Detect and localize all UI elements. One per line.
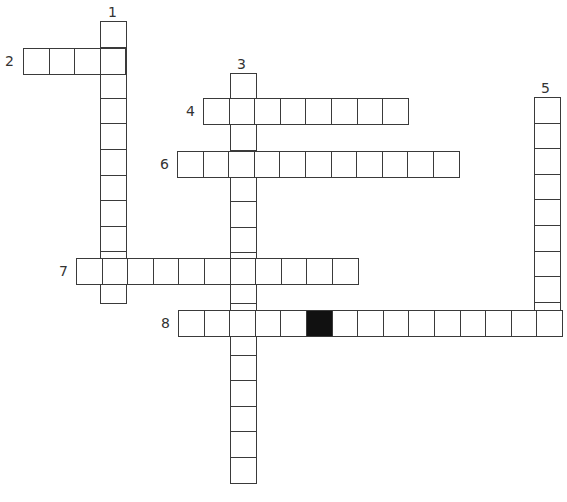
clue-number-5: 5 [541,81,550,95]
answer-cell-1-down-4[interactable] [100,98,127,125]
answer-cell-8-across-1[interactable] [178,310,205,337]
answer-cell-8-across-10[interactable] [408,310,435,337]
answer-cell-7-across-2[interactable] [102,258,129,285]
answer-cell-2-across-3[interactable] [74,48,101,75]
answer-cell-4-across-4[interactable] [280,98,307,125]
clue-number-1: 1 [108,5,117,19]
answer-cell-6-across-4[interactable] [254,151,281,178]
answer-cell-3-down-7[interactable] [230,227,257,254]
answer-cell-3-down-6[interactable] [230,201,257,228]
answer-cell-6-across-9[interactable] [382,151,409,178]
answer-cell-8-across-14[interactable] [511,310,538,337]
clue-number-7: 7 [59,264,68,278]
answer-cell-5-down-6[interactable] [534,225,561,252]
answer-cell-8-across-8[interactable] [357,310,384,337]
answer-cell-1-down-3[interactable] [100,72,127,99]
clue-number-6: 6 [160,157,169,171]
clue-number-2: 2 [5,54,14,68]
answer-cell-4-across-1[interactable] [203,98,230,125]
answer-cell-7-across-9[interactable] [281,258,308,285]
answer-cell-7-across-1[interactable] [76,258,103,285]
answer-cell-6-across-10[interactable] [407,151,434,178]
answer-cell-8-across-5[interactable] [280,310,307,337]
answer-cell-7-across-5[interactable] [178,258,205,285]
answer-cell-5-down-8[interactable] [534,276,561,303]
answer-cell-8-across-15[interactable] [536,310,563,337]
answer-cell-8-across-7[interactable] [332,310,359,337]
answer-cell-4-across-6[interactable] [331,98,358,125]
answer-cell-8-across-3[interactable] [229,310,256,337]
answer-cell-7-across-7[interactable] [230,258,257,285]
answer-cell-6-across-2[interactable] [203,151,230,178]
answer-cell-3-down-15[interactable] [230,431,257,458]
answer-cell-5-down-1[interactable] [534,97,561,124]
clue-number-8: 8 [161,316,170,330]
answer-cell-7-across-10[interactable] [306,258,333,285]
answer-cell-8-across-11[interactable] [434,310,461,337]
answer-cell-8-across-4[interactable] [255,310,282,337]
answer-cell-6-across-5[interactable] [279,151,306,178]
answer-cell-5-down-2[interactable] [534,123,561,150]
answer-cell-7-across-3[interactable] [127,258,154,285]
answer-cell-6-across-6[interactable] [305,151,332,178]
answer-cell-6-across-7[interactable] [331,151,358,178]
answer-cell-3-down-5[interactable] [230,175,257,202]
answer-cell-5-down-4[interactable] [534,174,561,201]
answer-cell-1-down-9[interactable] [100,226,127,253]
answer-cell-2-across-2[interactable] [49,48,76,75]
answer-cell-1-down-5[interactable] [100,123,127,150]
answer-cell-8-across-12[interactable] [460,310,487,337]
answer-cell-7-across-11[interactable] [332,258,359,285]
answer-cell-5-down-3[interactable] [534,148,561,175]
answer-cell-5-down-5[interactable] [534,199,561,226]
answer-cell-4-across-3[interactable] [254,98,281,125]
answer-cell-7-across-6[interactable] [204,258,231,285]
answer-cell-3-down-3[interactable] [230,124,257,151]
answer-cell-2-across-4[interactable] [100,48,127,75]
answer-cell-8-across-13[interactable] [485,310,512,337]
answer-cell-7-across-8[interactable] [255,258,282,285]
answer-cell-3-down-14[interactable] [230,406,257,433]
answer-cell-5-down-7[interactable] [534,251,561,278]
answer-cell-3-down-12[interactable] [230,355,257,382]
answer-cell-4-across-7[interactable] [357,98,384,125]
answer-cell-4-across-2[interactable] [229,98,256,125]
answer-cell-6-across-1[interactable] [177,151,204,178]
answer-cell-4-across-8[interactable] [382,98,409,125]
answer-cell-7-across-4[interactable] [153,258,180,285]
answer-cell-6-across-11[interactable] [433,151,460,178]
answer-cell-3-down-1[interactable] [230,73,257,100]
black-cell [306,310,333,337]
answer-cell-3-down-13[interactable] [230,380,257,407]
answer-cell-4-across-5[interactable] [305,98,332,125]
answer-cell-8-across-2[interactable] [204,310,231,337]
answer-cell-1-down-6[interactable] [100,149,127,176]
answer-cell-6-across-3[interactable] [228,151,255,178]
answer-cell-1-down-7[interactable] [100,175,127,202]
answer-cell-3-down-16[interactable] [230,457,257,484]
clue-number-3: 3 [237,57,246,71]
answer-cell-6-across-8[interactable] [356,151,383,178]
answer-cell-8-across-9[interactable] [383,310,410,337]
answer-cell-2-across-1[interactable] [23,48,50,75]
answer-cell-1-down-8[interactable] [100,200,127,227]
answer-cell-1-down-1[interactable] [100,21,127,48]
clue-number-4: 4 [186,104,195,118]
